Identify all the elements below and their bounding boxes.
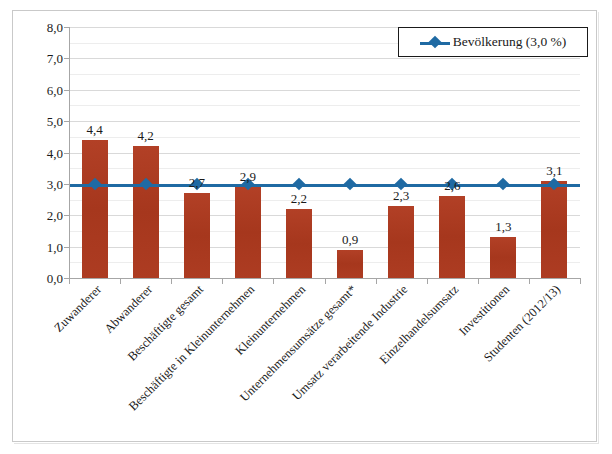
legend-diamond-icon [428, 35, 441, 48]
bar [133, 146, 159, 278]
bar-value-label: 3,1 [546, 164, 562, 177]
y-axis [69, 27, 70, 278]
legend: Bevölkerung (3,0 %) [398, 27, 588, 57]
chart-figure: 0,01,02,03,04,05,06,07,08,0 4,44,22,72,9… [0, 0, 612, 454]
bar [235, 187, 261, 278]
y-tick-label: 8,0 [47, 21, 63, 34]
plot-area: 0,01,02,03,04,05,06,07,08,0 4,44,22,72,9… [69, 27, 580, 278]
bar-value-label: 4,4 [86, 123, 102, 136]
bar [286, 209, 312, 278]
y-tick-label: 1,0 [47, 240, 63, 253]
gridline-minor [69, 74, 580, 75]
bar [82, 140, 108, 278]
bar-value-label: 1,3 [495, 220, 511, 233]
bar-value-label: 0,9 [342, 233, 358, 246]
legend-label: Bevölkerung (3,0 %) [453, 34, 567, 50]
y-tick-label: 2,0 [47, 209, 63, 222]
bar-value-label: 2,9 [240, 170, 256, 183]
bar-value-label: 2,7 [189, 176, 205, 189]
y-tick-label: 0,0 [47, 272, 63, 285]
bar-value-label: 2,2 [291, 192, 307, 205]
bar [337, 250, 363, 278]
gridline-minor [69, 105, 580, 106]
bar [388, 206, 414, 278]
bar-value-label: 2,3 [393, 189, 409, 202]
bar-value-label: 2,6 [444, 179, 460, 192]
x-axis-labels: ZuwandererAbwandererBeschäftigte gesamtB… [69, 279, 580, 439]
gridline-major [69, 58, 580, 59]
bar [184, 193, 210, 278]
gridline-major [69, 90, 580, 91]
y-tick-label: 3,0 [47, 177, 63, 190]
y-tick-label: 6,0 [47, 83, 63, 96]
bar [439, 196, 465, 278]
legend-line-marker-icon [420, 37, 450, 48]
x-tick-mark [580, 278, 581, 284]
legend-entry: Bevölkerung (3,0 %) [399, 28, 587, 56]
bar-value-label: 4,2 [138, 129, 154, 142]
bar [541, 181, 567, 278]
y-tick-label: 4,0 [47, 146, 63, 159]
y-tick-label: 7,0 [47, 52, 63, 65]
bar [490, 237, 516, 278]
y-tick-label: 5,0 [47, 115, 63, 128]
gridline-major [69, 121, 580, 122]
